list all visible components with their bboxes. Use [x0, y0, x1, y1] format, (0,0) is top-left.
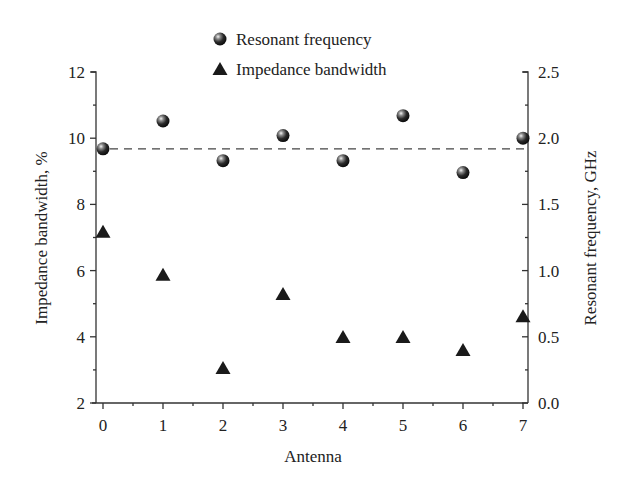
dual-axis-scatter-chart: Resonant frequency Impedance bandwidth 2… [0, 0, 623, 489]
triangle-data-point [216, 361, 231, 374]
x-tick-label: 6 [459, 416, 468, 435]
y-right-tick-label: 1.5 [538, 195, 559, 214]
x-tick-label: 2 [219, 416, 228, 435]
triangle-data-point [156, 268, 171, 281]
legend: Resonant frequency Impedance bandwidth [213, 30, 388, 79]
series-impedance-bandwidth [96, 225, 531, 374]
axes: 246810120.00.51.01.52.02.501234567 [68, 63, 559, 435]
legend-item-resonant-frequency: Resonant frequency [214, 30, 372, 49]
sphere-data-point [517, 132, 530, 145]
y-right-tick-label: 0.0 [538, 394, 559, 413]
triangle-data-point [96, 225, 111, 238]
sphere-data-point [337, 154, 350, 167]
y-left-tick-label: 6 [77, 262, 86, 281]
series-resonant-frequency [97, 109, 530, 179]
x-axis-title: Antenna [284, 447, 342, 466]
chart-root: Resonant frequency Impedance bandwidth 2… [0, 0, 623, 489]
triangle-data-point [456, 343, 471, 356]
x-tick-label: 4 [339, 416, 348, 435]
x-tick-label: 1 [159, 416, 168, 435]
triangle-data-point [396, 330, 411, 343]
y-left-tick-label: 10 [68, 129, 85, 148]
x-tick-label: 7 [519, 416, 528, 435]
sphere-data-point [277, 129, 290, 142]
y-left-tick-label: 12 [68, 63, 85, 82]
x-tick-label: 0 [99, 416, 108, 435]
sphere-data-point [397, 109, 410, 122]
sphere-data-point [157, 114, 170, 127]
sphere-data-point [97, 142, 110, 155]
sphere-marker-icon [214, 33, 227, 46]
y-right-tick-label: 1.0 [538, 262, 559, 281]
triangle-data-point [276, 287, 291, 300]
x-tick-label: 5 [399, 416, 408, 435]
legend-label: Resonant frequency [236, 30, 372, 49]
y-left-axis-title: Impedance bandwidth, % [32, 151, 51, 324]
legend-item-impedance-bandwidth: Impedance bandwidth [213, 60, 388, 79]
y-right-tick-label: 2.5 [538, 63, 559, 82]
triangle-marker-icon [213, 62, 228, 75]
y-right-tick-label: 0.5 [538, 328, 559, 347]
y-right-axis-title: Resonant frequency, GHz [581, 150, 600, 325]
y-left-tick-label: 2 [77, 394, 86, 413]
y-left-tick-label: 4 [77, 328, 86, 347]
y-left-tick-label: 8 [77, 195, 86, 214]
legend-label: Impedance bandwidth [236, 60, 387, 79]
sphere-data-point [457, 166, 470, 179]
triangle-data-point [336, 330, 351, 343]
sphere-data-point [217, 154, 230, 167]
x-tick-label: 3 [279, 416, 288, 435]
y-right-tick-label: 2.0 [538, 129, 559, 148]
